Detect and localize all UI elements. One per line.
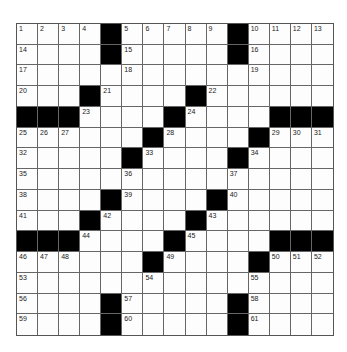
grid-cell[interactable] <box>207 45 228 66</box>
grid-cell[interactable] <box>207 128 228 149</box>
grid-cell[interactable]: 47 <box>38 252 59 273</box>
grid-cell[interactable] <box>59 169 80 190</box>
grid-cell[interactable] <box>291 273 312 294</box>
grid-cell[interactable]: 34 <box>249 148 270 169</box>
grid-cell[interactable] <box>164 190 185 211</box>
grid-cell[interactable]: 56 <box>17 294 38 315</box>
grid-cell[interactable]: 33 <box>143 148 164 169</box>
grid-cell[interactable]: 9 <box>207 24 228 45</box>
grid-cell[interactable] <box>249 86 270 107</box>
grid-cell[interactable]: 29 <box>270 128 291 149</box>
grid-cell[interactable] <box>249 190 270 211</box>
grid-cell[interactable] <box>312 211 333 232</box>
grid-cell[interactable] <box>312 86 333 107</box>
grid-cell[interactable] <box>122 273 143 294</box>
grid-cell[interactable] <box>186 65 207 86</box>
grid-cell[interactable] <box>312 273 333 294</box>
grid-cell[interactable] <box>38 273 59 294</box>
grid-cell[interactable]: 2 <box>38 24 59 45</box>
grid-cell[interactable]: 1 <box>17 24 38 45</box>
grid-cell[interactable]: 54 <box>143 273 164 294</box>
grid-cell[interactable]: 48 <box>59 252 80 273</box>
grid-cell[interactable] <box>312 190 333 211</box>
grid-cell[interactable] <box>186 45 207 66</box>
grid-cell[interactable] <box>38 65 59 86</box>
grid-cell[interactable] <box>207 107 228 128</box>
grid-cell[interactable]: 42 <box>101 211 122 232</box>
grid-cell[interactable] <box>164 86 185 107</box>
grid-cell[interactable]: 27 <box>59 128 80 149</box>
grid-cell[interactable]: 50 <box>270 252 291 273</box>
grid-cell[interactable] <box>80 252 101 273</box>
grid-cell[interactable] <box>228 252 249 273</box>
grid-cell[interactable] <box>164 211 185 232</box>
grid-cell[interactable] <box>59 314 80 335</box>
grid-cell[interactable]: 59 <box>17 314 38 335</box>
grid-cell[interactable]: 24 <box>186 107 207 128</box>
grid-cell[interactable] <box>312 148 333 169</box>
grid-cell[interactable] <box>164 65 185 86</box>
grid-cell[interactable] <box>143 211 164 232</box>
grid-cell[interactable] <box>101 107 122 128</box>
grid-cell[interactable]: 60 <box>122 314 143 335</box>
grid-cell[interactable] <box>291 294 312 315</box>
grid-cell[interactable] <box>59 294 80 315</box>
grid-cell[interactable] <box>80 273 101 294</box>
grid-cell[interactable] <box>59 148 80 169</box>
grid-cell[interactable]: 41 <box>17 211 38 232</box>
grid-cell[interactable]: 10 <box>249 24 270 45</box>
grid-cell[interactable] <box>143 294 164 315</box>
grid-cell[interactable] <box>164 148 185 169</box>
grid-cell[interactable] <box>207 273 228 294</box>
grid-cell[interactable] <box>270 273 291 294</box>
grid-cell[interactable] <box>270 211 291 232</box>
grid-cell[interactable]: 55 <box>249 273 270 294</box>
grid-cell[interactable] <box>312 294 333 315</box>
grid-cell[interactable] <box>270 294 291 315</box>
grid-cell[interactable]: 36 <box>122 169 143 190</box>
grid-cell[interactable]: 18 <box>122 65 143 86</box>
grid-cell[interactable] <box>312 314 333 335</box>
grid-cell[interactable] <box>143 314 164 335</box>
grid-cell[interactable] <box>186 294 207 315</box>
grid-cell[interactable]: 32 <box>17 148 38 169</box>
grid-cell[interactable] <box>228 107 249 128</box>
grid-cell[interactable] <box>291 314 312 335</box>
grid-cell[interactable]: 12 <box>291 24 312 45</box>
grid-cell[interactable]: 57 <box>122 294 143 315</box>
grid-cell[interactable]: 52 <box>312 252 333 273</box>
grid-cell[interactable]: 26 <box>38 128 59 149</box>
grid-cell[interactable]: 23 <box>80 107 101 128</box>
grid-cell[interactable] <box>186 252 207 273</box>
grid-cell[interactable] <box>207 294 228 315</box>
grid-cell[interactable] <box>122 231 143 252</box>
grid-cell[interactable] <box>291 86 312 107</box>
grid-cell[interactable] <box>164 273 185 294</box>
grid-cell[interactable] <box>80 169 101 190</box>
grid-cell[interactable] <box>80 294 101 315</box>
grid-cell[interactable] <box>270 86 291 107</box>
grid-cell[interactable] <box>270 45 291 66</box>
grid-cell[interactable] <box>80 314 101 335</box>
grid-cell[interactable]: 20 <box>17 86 38 107</box>
grid-cell[interactable] <box>291 190 312 211</box>
grid-cell[interactable] <box>228 128 249 149</box>
grid-cell[interactable]: 7 <box>164 24 185 45</box>
grid-cell[interactable] <box>291 211 312 232</box>
grid-cell[interactable] <box>291 65 312 86</box>
grid-cell[interactable]: 8 <box>186 24 207 45</box>
grid-cell[interactable]: 61 <box>249 314 270 335</box>
grid-cell[interactable] <box>143 86 164 107</box>
grid-cell[interactable] <box>228 211 249 232</box>
grid-cell[interactable] <box>207 169 228 190</box>
grid-cell[interactable] <box>207 65 228 86</box>
grid-cell[interactable] <box>38 148 59 169</box>
grid-cell[interactable] <box>270 65 291 86</box>
grid-cell[interactable] <box>122 211 143 232</box>
grid-cell[interactable]: 16 <box>249 45 270 66</box>
grid-cell[interactable] <box>249 107 270 128</box>
grid-cell[interactable] <box>207 314 228 335</box>
grid-cell[interactable] <box>122 107 143 128</box>
grid-cell[interactable] <box>38 169 59 190</box>
grid-cell[interactable] <box>80 65 101 86</box>
